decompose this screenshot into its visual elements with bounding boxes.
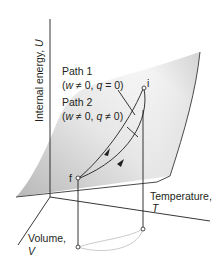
volume-axis-symbol: V xyxy=(28,245,36,257)
u-axis-text: Internal energy, xyxy=(33,47,45,122)
volume-axis-label: Volume, xyxy=(28,232,66,244)
projection-point-right xyxy=(141,227,145,231)
u-axis-symbol: U xyxy=(33,39,45,47)
path-2-q-rel: ≠ 0) xyxy=(102,110,123,122)
initial-point xyxy=(142,86,146,90)
path-1-w-rel: ≠ 0, xyxy=(73,79,96,91)
path-1-condition: (w ≠ 0, q = 0) xyxy=(62,79,124,91)
path-2-condition: (w ≠ 0, q ≠ 0) xyxy=(62,110,123,122)
projected-path-1 xyxy=(78,229,143,247)
final-point xyxy=(76,176,80,180)
path-1-title: Path 1 xyxy=(62,65,93,77)
path-2-w-rel: ≠ 0, xyxy=(73,110,96,122)
final-point-label: f xyxy=(69,172,72,184)
projected-path-2 xyxy=(78,229,143,251)
projection-point-f xyxy=(76,245,80,249)
temperature-axis-label: Temperature, xyxy=(150,190,212,202)
path-1-q-rel: = 0) xyxy=(102,79,123,91)
state-function-diagram: i f Internal energy, U Path 1 (w ≠ 0, q … xyxy=(0,0,223,273)
path-2-title: Path 2 xyxy=(62,96,93,108)
temperature-axis-symbol: T xyxy=(152,202,160,214)
initial-point-label: i xyxy=(147,77,149,89)
internal-energy-axis-label: Internal energy, U xyxy=(33,39,45,122)
